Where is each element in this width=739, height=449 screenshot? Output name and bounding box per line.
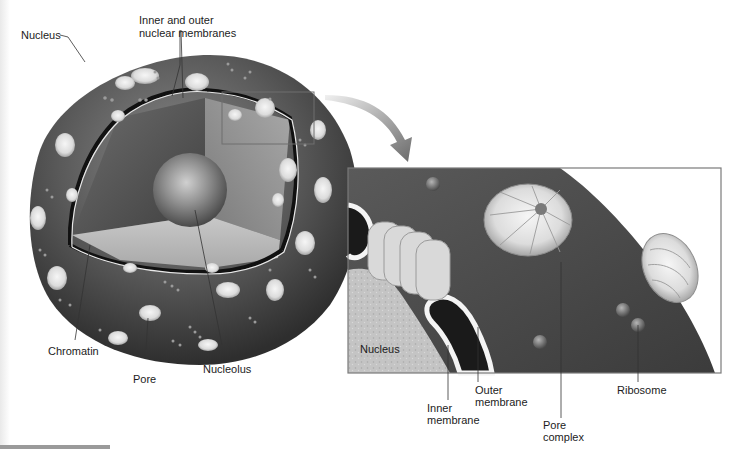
label-pore-complex-line1: Pore xyxy=(543,419,566,431)
nucleolus xyxy=(153,153,227,227)
label-outer-membrane-line1: Outer xyxy=(475,384,503,396)
label-chromatin: Chromatin xyxy=(48,345,99,357)
label-membranes-line2: nuclear membranes xyxy=(139,27,236,39)
figure-caption-bar xyxy=(0,445,110,449)
label-ribosome: Ribosome xyxy=(617,384,667,396)
label-pore-complex-line2: complex xyxy=(543,431,584,443)
inset-panel xyxy=(348,168,721,373)
label-nucleus: Nucleus xyxy=(21,29,61,41)
inset-label-nucleus: Nucleus xyxy=(360,343,400,355)
label-inner-membrane-line2: membrane xyxy=(427,414,480,426)
label-outer-membrane-line2: membrane xyxy=(475,396,528,408)
label-pore: Pore xyxy=(133,373,156,385)
label-nucleolus: Nucleolus xyxy=(203,363,251,375)
nucleus-diagram xyxy=(0,0,739,449)
pore-complex-top xyxy=(484,184,572,256)
label-membranes-line1: Inner and outer xyxy=(139,14,214,26)
label-inner-membrane-line1: Inner xyxy=(427,402,452,414)
